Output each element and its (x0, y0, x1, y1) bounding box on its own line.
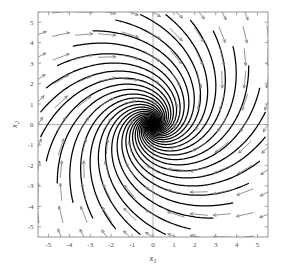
x-tick-label: 5 (256, 241, 260, 249)
y-axis-title: x2 (9, 121, 20, 129)
x-tick-label: -3 (87, 241, 93, 249)
y-tick-label: -4 (28, 203, 34, 211)
x-axis-title: x1 (149, 253, 157, 264)
x-axis-subscript: 1 (153, 258, 156, 264)
y-tick-label: 2 (30, 80, 34, 88)
phase-portrait-figure: -5-4-3-2-1012345-5-4-3-2-1012345x1x2 (0, 0, 284, 268)
y-tick-label: -5 (28, 223, 34, 231)
plot-area: -5-4-3-2-1012345-5-4-3-2-1012345x1x2 (9, 4, 277, 265)
y-tick-label: 4 (30, 39, 34, 47)
x-tick-label: 3 (214, 241, 218, 249)
x-tick-label: 4 (235, 241, 239, 249)
x-tick-label: 1 (172, 241, 176, 249)
y-axis-subscript: 2 (14, 121, 20, 124)
x-tick-label: -5 (46, 241, 52, 249)
y-tick-label: 5 (30, 19, 34, 27)
phase-portrait-plot: -5-4-3-2-1012345-5-4-3-2-1012345x1x2 (0, 0, 284, 268)
x-tick-label: -4 (66, 241, 72, 249)
y-tick-label: 3 (30, 60, 34, 68)
y-tick-label: 0 (30, 121, 34, 129)
x-tick-label: 0 (151, 241, 155, 249)
y-tick-label: -3 (28, 182, 34, 190)
y-tick-label: 1 (30, 101, 34, 109)
y-tick-label: -2 (28, 162, 34, 170)
x-tick-label: -2 (108, 241, 114, 249)
y-tick-label: -1 (28, 141, 34, 149)
x-tick-label: -1 (129, 241, 135, 249)
x-tick-label: 2 (193, 241, 197, 249)
